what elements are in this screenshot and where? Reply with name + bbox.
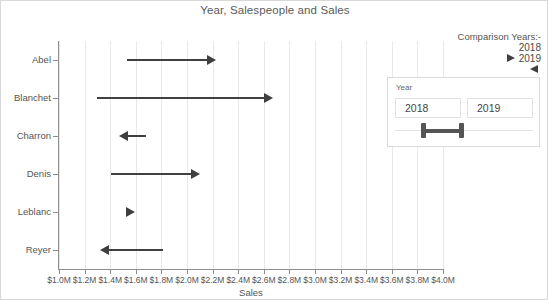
data-arrow-line [111, 173, 192, 175]
chart-frame: Year, Salespeople and Sales $1.0M$1.2M$1… [0, 0, 548, 300]
page-title: Year, Salespeople and Sales [1, 4, 548, 16]
x-axis-title: Sales [59, 287, 443, 298]
year-slider-track[interactable] [395, 130, 533, 131]
legend-label-2019: 2019 [519, 53, 541, 64]
gridline [59, 41, 60, 269]
gridline [161, 41, 162, 269]
x-axis-tick [264, 269, 265, 274]
x-axis-tick [136, 269, 137, 274]
y-axis-tick-label: Reyer [1, 244, 51, 255]
year-slider-handle-right[interactable] [459, 123, 464, 138]
gridline [289, 41, 290, 269]
data-arrow-line [127, 59, 210, 61]
gridline [392, 41, 393, 269]
data-arrowhead-left [119, 131, 128, 141]
year-filter-panel[interactable]: Year 2018 2019 [387, 77, 540, 147]
gridline [443, 41, 444, 269]
data-arrowhead-right [207, 55, 216, 65]
x-axis-line [58, 269, 444, 270]
data-arrow-line [97, 97, 265, 99]
x-axis-tick [417, 269, 418, 274]
legend-entry-2019[interactable]: 2019 [399, 53, 547, 64]
gridline [136, 41, 137, 269]
x-axis-tick [289, 269, 290, 274]
legend-label-2018: 2018 [519, 42, 541, 53]
gridline [417, 41, 418, 269]
plot-area [59, 41, 443, 269]
gridline [315, 41, 316, 269]
x-axis-tick [161, 269, 162, 274]
y-axis-tick [53, 136, 58, 137]
x-axis-tick [213, 269, 214, 274]
gridline [366, 41, 367, 269]
x-axis-tick [110, 269, 111, 274]
legend-title: Comparison Years:- [399, 31, 547, 42]
x-axis-tick [59, 269, 60, 274]
year-to-input[interactable]: 2019 [467, 98, 533, 118]
arrow-left-icon [528, 64, 540, 75]
data-arrowhead-right [126, 207, 135, 217]
x-axis-tick [315, 269, 316, 274]
x-axis-tick [366, 269, 367, 274]
data-arrowhead-right [191, 169, 200, 179]
x-axis-tick [85, 269, 86, 274]
gridline [187, 41, 188, 269]
x-axis-tick [392, 269, 393, 274]
year-filter-label: Year [396, 83, 412, 92]
gridline [85, 41, 86, 269]
x-axis-tick [443, 269, 444, 274]
gridline [341, 41, 342, 269]
year-slider-range[interactable] [424, 129, 462, 133]
y-axis-tick [53, 60, 58, 61]
x-axis-tick-label: $4.0M [423, 275, 463, 285]
year-slider-handle-left[interactable] [421, 123, 426, 138]
y-axis-tick [53, 250, 58, 251]
y-axis-tick-label: Abel [1, 54, 51, 65]
y-axis-tick-label: Blanchet [1, 92, 51, 103]
x-axis-tick [341, 269, 342, 274]
y-axis-tick-label: Leblanc [1, 206, 51, 217]
data-arrowhead-right [264, 93, 273, 103]
y-axis-tick [53, 98, 58, 99]
gridline [238, 41, 239, 269]
gridline [213, 41, 214, 269]
x-axis-tick [187, 269, 188, 274]
data-arrowhead-left [100, 245, 109, 255]
legend-entry-2018[interactable]: 2018 [399, 42, 547, 53]
x-axis-tick [238, 269, 239, 274]
arrow-right-icon [506, 53, 518, 64]
data-arrow-line [107, 249, 163, 251]
year-from-input[interactable]: 2018 [395, 98, 461, 118]
legend: Comparison Years:- 2018 2019 [399, 31, 547, 75]
y-axis-tick [53, 212, 58, 213]
legend-entry-decrease[interactable] [399, 64, 547, 75]
y-axis-tick-label: Denis [1, 168, 51, 179]
data-arrow-line [126, 135, 146, 137]
legend-marker-blank [506, 42, 518, 53]
gridline [110, 41, 111, 269]
y-axis-tick-label: Charron [1, 130, 51, 141]
y-axis-tick [53, 174, 58, 175]
gridline [264, 41, 265, 269]
